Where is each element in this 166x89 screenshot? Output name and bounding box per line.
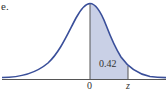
normal-curve-figure: e. 0.42 0 z xyxy=(0,0,166,89)
normal-curve xyxy=(2,4,166,78)
normal-curve-plot xyxy=(0,0,166,89)
shaded-area-value: 0.42 xyxy=(99,59,117,69)
tick-label-z: z xyxy=(126,81,130,89)
part-label: e. xyxy=(1,1,9,12)
tick-label-zero: 0 xyxy=(87,81,92,89)
